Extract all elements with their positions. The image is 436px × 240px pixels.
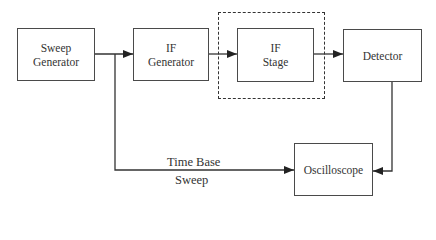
detector-block: Detector [343, 29, 422, 82]
sweep-generator-block: Sweep Generator [17, 28, 95, 81]
sweep-label: Sweep [175, 173, 208, 188]
if-generator-block: IF Generator [133, 28, 209, 81]
sweep-generator-label-line1: Sweep [33, 41, 79, 55]
if-stage-label-line2: Stage [263, 55, 289, 69]
oscilloscope-label: Oscilloscope [304, 163, 363, 177]
if-generator-label-line2: Generator [148, 55, 194, 69]
sweep-generator-label-line2: Generator [33, 55, 79, 69]
if-stage-label-line1: IF [263, 41, 289, 55]
arrow-detector-to-oscilloscope [373, 82, 392, 171]
time-base-label: Time Base [167, 155, 220, 170]
oscilloscope-block: Oscilloscope [294, 143, 373, 196]
if-generator-label-line1: IF [148, 41, 194, 55]
detector-label: Detector [363, 49, 403, 63]
if-stage-block: IF Stage [237, 28, 314, 82]
